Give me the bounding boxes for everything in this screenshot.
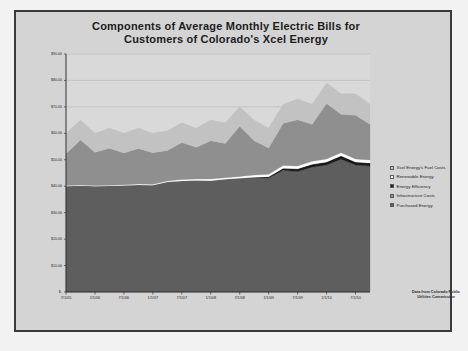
legend-item-label: Energy Efficiency	[397, 184, 431, 189]
legend-item: Renewable Energy	[390, 173, 468, 180]
legend-swatch-icon	[390, 203, 394, 207]
legend-item-label: Infrastructure Costs	[397, 193, 435, 198]
plot-area: $-$10.00$20.00$30.00$40.00$50.00$60.00$7…	[40, 50, 374, 312]
y-axis-tick-label: $70.00	[40, 105, 62, 109]
y-axis-tick-label: $80.00	[40, 78, 62, 82]
x-axis-tick-label: 7/1/06	[112, 296, 136, 300]
x-axis-tick-label: 1/1/08	[199, 296, 223, 300]
y-axis-tick-label: $30.00	[40, 211, 62, 215]
legend-swatch-icon	[390, 175, 394, 179]
y-axis-tick-label: $60.00	[40, 131, 62, 135]
legend-swatch-icon	[390, 184, 394, 188]
y-axis-tick-label: $10.00	[40, 264, 62, 268]
x-axis-tick-label: 7/1/05	[54, 296, 78, 300]
x-axis-tick-label: 1/1/06	[83, 296, 107, 300]
legend-swatch-icon	[390, 194, 394, 198]
x-axis-tick-label: 7/1/09	[286, 296, 310, 300]
x-axis-tick-label: 1/1/07	[141, 296, 165, 300]
x-axis-tick-label: 7/1/07	[170, 296, 194, 300]
x-axis-tick-label: 7/1/08	[228, 296, 252, 300]
legend-item: Purchased Energy	[390, 202, 468, 209]
legend-item-label: Purchased Energy	[397, 203, 433, 208]
stacked-area-chart	[40, 50, 374, 312]
chart-title-line2: Customers of Colorado's Xcel Energy	[56, 33, 396, 46]
chart-title-line1: Components of Average Monthly Electric B…	[56, 20, 396, 33]
x-axis-tick-label: 1/1/10	[315, 296, 339, 300]
y-axis-tick-label: $-	[40, 290, 62, 294]
legend-item-label: Xcel Energy's Fuel Costs	[397, 165, 446, 170]
chart-legend: Xcel Energy's Fuel CostsRenewable Energy…	[390, 164, 468, 211]
chart-card: Components of Average Monthly Electric B…	[14, 10, 452, 332]
legend-item: Energy Efficiency	[390, 183, 468, 190]
y-axis-tick-label: $50.00	[40, 158, 62, 162]
chart-title: Components of Average Monthly Electric B…	[56, 20, 396, 46]
y-axis-tick-label: $40.00	[40, 184, 62, 188]
legend-swatch-icon	[390, 166, 394, 170]
legend-item-label: Renewable Energy	[397, 174, 434, 179]
y-axis-tick-label: $20.00	[40, 237, 62, 241]
source-note: Data from Colorado Public Utilities Comm…	[394, 290, 468, 299]
x-axis-tick-label: 1/1/09	[257, 296, 281, 300]
x-axis-tick-label: 7/1/10	[344, 296, 368, 300]
y-axis-tick-label: $90.00	[40, 52, 62, 56]
legend-item: Xcel Energy's Fuel Costs	[390, 164, 468, 171]
source-line-2: Utilities Commission	[394, 295, 468, 300]
legend-item: Infrastructure Costs	[390, 192, 468, 199]
